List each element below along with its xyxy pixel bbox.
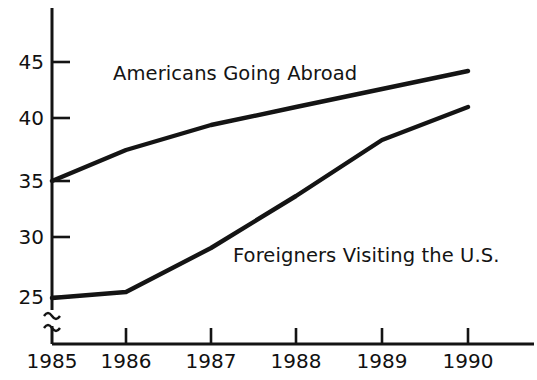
y-tick-label-45: 45 xyxy=(4,50,44,74)
x-tick-label-1989: 1989 xyxy=(337,349,427,373)
y-tick-label-25: 25 xyxy=(4,285,44,309)
line-chart: 45 40 35 30 25 1985 1986 1987 1988 1989 … xyxy=(0,0,537,380)
x-tick-marks xyxy=(126,328,468,344)
series-annotation-americans-going-abroad: Americans Going Abroad xyxy=(113,62,357,85)
series-line-americans-going-abroad xyxy=(52,71,468,181)
y-tick-label-35: 35 xyxy=(4,169,44,193)
axis-break-squiggle-upper xyxy=(44,313,60,319)
x-tick-label-1986: 1986 xyxy=(81,349,171,373)
series-line-foreigners-visiting-us xyxy=(52,107,468,298)
y-tick-label-30: 30 xyxy=(4,225,44,249)
series-annotation-foreigners-visiting-us: Foreigners Visiting the U.S. xyxy=(233,244,500,267)
x-tick-label-1988: 1988 xyxy=(251,349,341,373)
x-tick-label-1990: 1990 xyxy=(423,349,513,373)
y-tick-label-40: 40 xyxy=(4,106,44,130)
chart-plot-area xyxy=(0,0,537,380)
x-tick-label-1987: 1987 xyxy=(166,349,256,373)
